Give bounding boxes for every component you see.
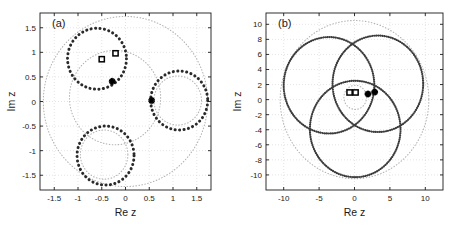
y-tick-label: 0 [258,96,263,105]
y-tick-label: 0.5 [25,73,37,82]
x-tick-label: 0 [352,194,357,203]
y-tick-label: -1.5 [22,171,36,180]
y-tick-label: 8 [258,35,263,44]
y-tick-label: -4 [255,126,263,135]
x-tick-label: 10 [421,194,430,203]
figure-container: -1.5-1-0.500.511.5-1.5-1-0.500.511.5Re z… [0,0,449,228]
x-axis-title: Re z [344,206,366,218]
y-tick-label: 2 [258,81,263,90]
y-axis-title: Im z [5,92,17,112]
plot-b-canvas: -10-50510-10-8-6-4-20246810Re zIm z(b) [224,0,449,228]
x-tick-label: 1 [171,194,176,203]
x-tick-label: 0 [123,194,128,203]
y-tick-label: 10 [253,20,262,29]
asterisk-marker [365,91,372,98]
x-tick-label: 0.5 [144,194,156,203]
y-tick-label: 1.5 [25,24,37,33]
plot-panel-a: -1.5-1-0.500.511.5-1.5-1-0.500.511.5Re z… [0,0,225,228]
y-tick-label: -6 [255,141,263,150]
x-tick-label: 1.5 [191,194,203,203]
panel-label: (a) [52,17,65,29]
y-tick-label: 0 [32,98,37,107]
y-tick-label: -0.5 [22,122,36,131]
asterisk-marker [109,78,116,85]
y-tick-label: 6 [258,50,263,59]
y-axis-title: Im z [231,92,243,112]
x-tick-label: -10 [278,194,290,203]
y-tick-label: -1 [29,147,37,156]
y-tick-label: -8 [255,156,263,165]
x-tick-label: -1 [74,194,82,203]
y-tick-label: 4 [258,65,263,74]
x-axis-title: Re z [115,206,137,218]
asterisk-marker [371,89,378,96]
plot-a-canvas: -1.5-1-0.500.511.5-1.5-1-0.500.511.5Re z… [0,0,225,228]
x-tick-label: -0.5 [95,194,109,203]
x-tick-label: 5 [388,194,393,203]
panel-label: (b) [278,17,291,29]
x-tick-label: -5 [316,194,324,203]
y-tick-label: -2 [255,111,263,120]
x-tick-label: -1.5 [47,194,61,203]
plot-panel-b: -10-50510-10-8-6-4-20246810Re zIm z(b) [224,0,449,228]
y-tick-label: 1 [32,48,37,57]
y-tick-label: -10 [250,171,262,180]
asterisk-marker [148,97,155,104]
